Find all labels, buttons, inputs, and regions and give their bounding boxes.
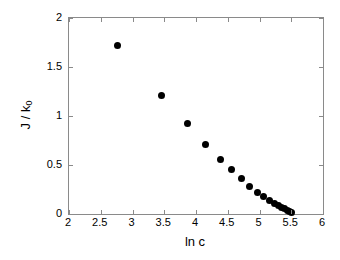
- x-axis-tick-label: 6: [319, 216, 325, 228]
- x-axis-tick: [323, 210, 324, 214]
- y-axis-tick: [69, 18, 73, 19]
- x-axis-tick-label: 3: [128, 216, 134, 228]
- y-axis-tick: [69, 67, 73, 68]
- x-axis-label: ln c: [185, 234, 205, 249]
- x-axis-tick-top: [164, 18, 165, 22]
- x-axis-tick-top: [228, 18, 229, 22]
- data-point: [158, 92, 165, 99]
- x-axis-tick-label: 4.5: [219, 216, 234, 228]
- y-axis-tick-right: [319, 67, 323, 68]
- x-axis-tick: [164, 210, 165, 214]
- x-axis-tick-top: [133, 18, 134, 22]
- y-axis-tick: [69, 116, 73, 117]
- x-axis-tick-top: [323, 18, 324, 22]
- y-axis-tick-right: [319, 18, 323, 19]
- y-axis-label: J / k0: [18, 101, 33, 130]
- y-axis-tick-label: 0: [56, 207, 62, 219]
- data-point: [238, 175, 245, 182]
- x-axis-tick-top: [101, 18, 102, 22]
- x-axis-tick: [101, 210, 102, 214]
- x-axis-tick-label: 2.5: [92, 216, 107, 228]
- x-axis-tick-label: 2: [65, 216, 71, 228]
- y-axis-tick-label: 0.5: [47, 158, 62, 170]
- data-point: [228, 166, 235, 173]
- x-axis-tick: [260, 210, 261, 214]
- y-axis-tick: [69, 165, 73, 166]
- x-axis-tick-label: 4: [192, 216, 198, 228]
- y-axis-tick-label: 1.5: [47, 60, 62, 72]
- x-axis-tick: [196, 210, 197, 214]
- x-axis-tick-top: [260, 18, 261, 22]
- y-axis-tick: [69, 214, 73, 215]
- y-axis-label-base: J / k: [18, 106, 33, 130]
- y-axis-tick-right: [319, 214, 323, 215]
- y-axis-tick-right: [319, 165, 323, 166]
- scatter-points-layer: [69, 18, 323, 214]
- x-axis-tick-label: 5.5: [283, 216, 298, 228]
- y-axis-tick-right: [319, 116, 323, 117]
- x-axis-tick-top: [196, 18, 197, 22]
- y-axis-tick-label: 2: [56, 11, 62, 23]
- data-point: [217, 156, 224, 163]
- x-axis-tick: [228, 210, 229, 214]
- data-point: [114, 42, 121, 49]
- x-axis-tick: [133, 210, 134, 214]
- x-axis-tick-label: 5: [255, 216, 261, 228]
- y-axis-label-subscript: 0: [24, 101, 34, 106]
- data-point: [202, 141, 209, 148]
- data-point: [184, 120, 191, 127]
- data-point: [246, 183, 253, 190]
- plot-area: [68, 17, 324, 215]
- x-axis-tick: [291, 210, 292, 214]
- x-axis-tick-label: 3.5: [156, 216, 171, 228]
- x-axis-tick-top: [291, 18, 292, 22]
- y-axis-tick-label: 1: [56, 109, 62, 121]
- chart-figure: J / k0 ln c 22.533.544.555.5600.511.52: [0, 0, 340, 260]
